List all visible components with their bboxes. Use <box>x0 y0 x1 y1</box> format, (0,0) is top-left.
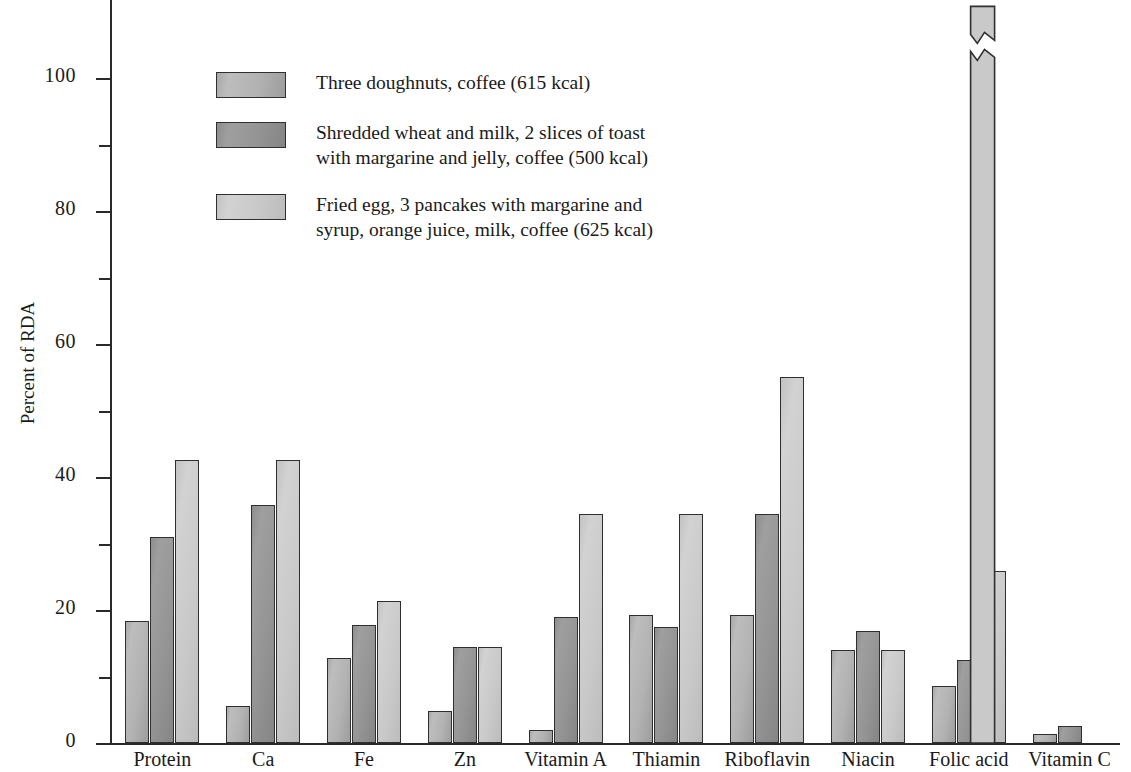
bar-protein-series-1[interactable] <box>150 537 174 743</box>
legend-item-2[interactable]: Fried egg, 3 pancakes with margarine and… <box>216 192 696 242</box>
bar-protein-series-0[interactable] <box>125 621 149 743</box>
legend: Three doughnuts, coffee (615 kcal) Shred… <box>216 70 696 264</box>
legend-item-0[interactable]: Three doughnuts, coffee (615 kcal) <box>216 70 696 98</box>
bar-protein-series-2[interactable] <box>175 460 199 743</box>
bar-ca-series-0[interactable] <box>226 706 250 743</box>
bar-thiamin-series-1[interactable] <box>654 627 678 743</box>
y-tick-major-0 <box>96 743 112 745</box>
bar-vitamin-a-series-0[interactable] <box>529 730 553 743</box>
bar-riboflavin-series-1[interactable] <box>755 514 779 743</box>
y-tick-minor-70 <box>99 278 112 280</box>
bar-ca-series-2[interactable] <box>276 460 300 743</box>
x-axis-line <box>110 743 1120 745</box>
x-category-label-protein: Protein <box>112 748 213 771</box>
legend-swatch-icon-series-0 <box>216 72 286 98</box>
x-category-label-zn: Zn <box>414 748 515 771</box>
bar-thiamin-series-2[interactable] <box>679 514 703 743</box>
bar-fe-series-0[interactable] <box>327 658 351 743</box>
bar-fe-series-2[interactable] <box>377 601 401 743</box>
x-category-label-niacin: Niacin <box>818 748 919 771</box>
y-tick-minor-90 <box>99 145 112 147</box>
bar-folic-acid-series-1[interactable] <box>957 660 981 743</box>
y-tick-label-60: 60 <box>55 330 76 353</box>
bar-group-niacin <box>818 0 919 743</box>
bar-fe-series-1[interactable] <box>352 625 376 743</box>
legend-item-1[interactable]: Shredded wheat and milk, 2 slices of toa… <box>216 120 696 170</box>
bar-niacin-series-0[interactable] <box>831 650 855 743</box>
bar-group-riboflavin <box>717 0 818 743</box>
bar-folic-acid-series-2[interactable] <box>982 571 1006 743</box>
legend-label-1: Shredded wheat and milk, 2 slices of toa… <box>316 120 648 170</box>
y-tick-minor-10 <box>99 677 112 679</box>
x-category-label-ca: Ca <box>213 748 314 771</box>
bar-zn-series-2[interactable] <box>478 647 502 743</box>
bar-chart: Percent of RDA 020406080100 ProteinCaFeZ… <box>0 0 1131 772</box>
bar-group-vitamin-c <box>1019 0 1120 743</box>
y-tick-major-100 <box>96 78 112 80</box>
y-tick-major-20 <box>96 610 112 612</box>
legend-label-0: Three doughnuts, coffee (615 kcal) <box>316 70 590 95</box>
bar-vitamin-a-series-1[interactable] <box>554 617 578 743</box>
x-category-label-vitamin-a: Vitamin A <box>515 748 616 771</box>
bar-group-protein <box>112 0 213 743</box>
x-category-label-riboflavin: Riboflavin <box>717 748 818 771</box>
y-tick-label-20: 20 <box>55 596 76 619</box>
bar-ca-series-1[interactable] <box>251 505 275 743</box>
bar-zn-series-1[interactable] <box>453 647 477 743</box>
bar-niacin-series-2[interactable] <box>881 650 905 743</box>
y-tick-major-60 <box>96 344 112 346</box>
x-category-label-folic-acid: Folic acid <box>918 748 1019 771</box>
y-axis-title: Percent of RDA <box>17 273 39 453</box>
bar-group-folic-acid <box>918 0 1019 743</box>
x-category-label-vitamin-c: Vitamin C <box>1019 748 1120 771</box>
bar-riboflavin-series-0[interactable] <box>730 615 754 743</box>
y-tick-minor-50 <box>99 411 112 413</box>
legend-label-2: Fried egg, 3 pancakes with margarine and… <box>316 192 653 242</box>
y-tick-minor-30 <box>99 544 112 546</box>
legend-swatch-icon-series-2 <box>216 194 286 220</box>
y-tick-label-40: 40 <box>55 463 76 486</box>
bar-niacin-series-1[interactable] <box>856 631 880 743</box>
y-tick-major-80 <box>96 211 112 213</box>
bar-thiamin-series-0[interactable] <box>629 615 653 743</box>
x-category-label-fe: Fe <box>314 748 415 771</box>
bar-vitamin-c-series-1[interactable] <box>1058 726 1082 743</box>
x-category-label-thiamin: Thiamin <box>616 748 717 771</box>
bar-vitamin-a-series-2[interactable] <box>579 514 603 743</box>
bar-folic-acid-series-0[interactable] <box>932 686 956 743</box>
legend-swatch-icon-series-1 <box>216 122 286 148</box>
y-tick-label-0: 0 <box>66 729 77 752</box>
y-tick-label-100: 100 <box>45 64 77 87</box>
bar-vitamin-c-series-0[interactable] <box>1033 734 1057 743</box>
y-tick-label-80: 80 <box>55 197 76 220</box>
bar-riboflavin-series-2[interactable] <box>780 377 804 743</box>
bar-zn-series-0[interactable] <box>428 711 452 743</box>
y-tick-major-40 <box>96 477 112 479</box>
